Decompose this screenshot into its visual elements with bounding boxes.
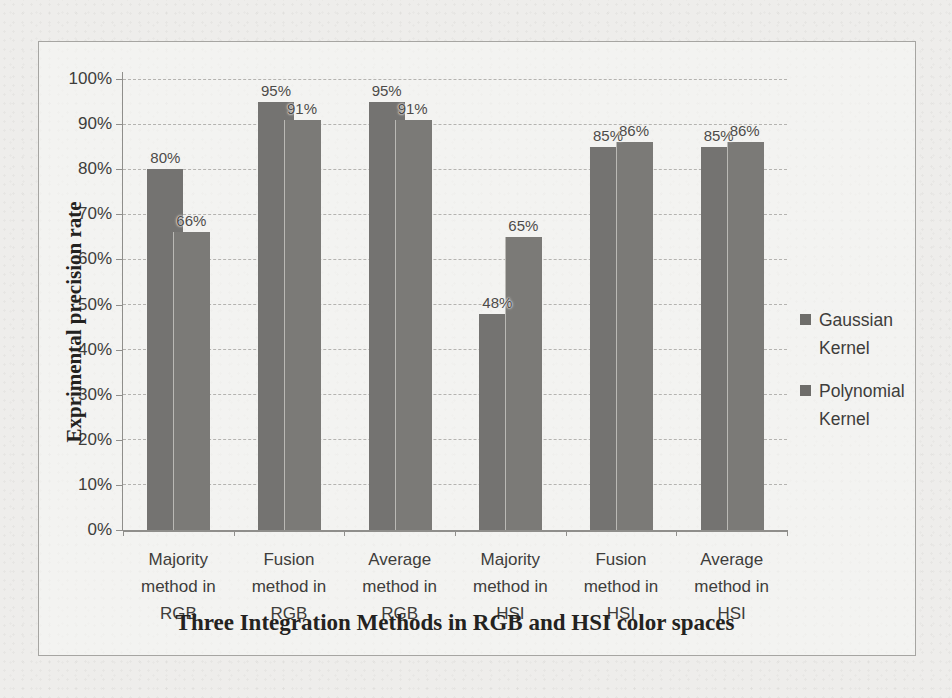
x-tick-mark [123,530,124,536]
legend-label: GaussianKernel [819,306,893,362]
scanned-page: { "figure": { "paper_color": "#eeedeb", … [0,0,952,698]
x-category-line: method in [233,573,345,600]
x-category-line: Majority [122,546,234,573]
legend-marker-icon [800,314,811,325]
gridline-100% [123,79,787,80]
gridline-90% [123,124,787,125]
y-axis-line [122,72,123,530]
x-tick-mark [344,530,345,536]
y-tick-label: 90% [54,115,112,133]
data-label: 91% [287,100,317,117]
x-tick-mark [676,530,677,536]
x-tick-mark [234,530,235,536]
y-tick-label: 100% [54,70,112,88]
x-category-line: Average [344,546,456,573]
data-label: 95% [261,82,291,99]
x-category-line: Average [676,546,788,573]
gridline-40% [123,349,787,350]
x-category-line: method in [344,573,456,600]
legend: GaussianKernelPolynomialKernel [800,306,905,448]
x-category-line: method in [454,573,566,600]
x-axis-title: Three Integration Methods in RGB and HSI… [123,610,787,636]
bar-polynomial [173,232,210,530]
x-category-line: Fusion [233,546,345,573]
bar-polynomial [616,142,653,530]
x-category-line: Fusion [565,546,677,573]
data-label: 48% [482,294,512,311]
x-tick-mark [787,530,788,536]
legend-item-gaussian: GaussianKernel [800,306,905,362]
legend-label-line: Polynomial [819,377,905,405]
legend-label-line: Kernel [819,334,893,362]
x-category-line: method in [565,573,677,600]
data-label: 91% [398,100,428,117]
gridline-30% [123,394,787,395]
bar-polynomial [284,120,321,530]
bar-polynomial [505,237,542,530]
data-label: 80% [150,149,180,166]
y-tick-label: 0% [54,521,112,539]
y-axis-title: Exprimental precision rate [62,201,87,442]
data-label: 86% [619,122,649,139]
legend-label-line: Kernel [819,405,905,433]
legend-label: PolynomialKernel [819,377,905,433]
gridline-50% [123,304,787,305]
gridline-20% [123,439,787,440]
x-tick-mark [455,530,456,536]
gridline-80% [123,169,787,170]
bar-polynomial [727,142,764,530]
legend-label-line: Gaussian [819,306,893,334]
bar-polynomial [395,120,432,530]
x-category-line: method in [676,573,788,600]
gridline-10% [123,484,787,485]
gridline-60% [123,259,787,260]
data-label: 86% [730,122,760,139]
x-category-line: Majority [454,546,566,573]
x-tick-mark [566,530,567,536]
y-tick-label: 10% [54,476,112,494]
x-category-line: method in [122,573,234,600]
gridline-70% [123,214,787,215]
data-label: 66% [176,212,206,229]
y-tick-label: 80% [54,160,112,178]
data-label: 95% [372,82,402,99]
legend-item-polynomial: PolynomialKernel [800,377,905,433]
y-tick-mark [116,530,123,531]
legend-marker-icon [800,385,811,396]
data-label: 65% [508,217,538,234]
